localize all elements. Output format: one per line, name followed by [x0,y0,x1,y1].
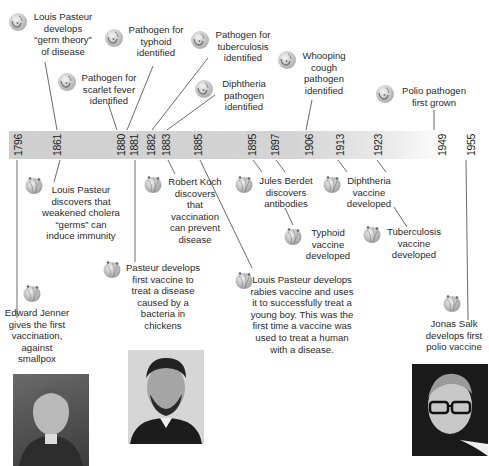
event-text: treat a disease [122,285,204,297]
event-1796-jenner-smallpox: Edward Jenner gives the first vaccinatio… [2,307,72,365]
event-text: Tuberculosis [384,226,444,238]
event-text: Polio pathogen [396,85,472,97]
event-text: Diphtheria [343,175,395,187]
year-1949: 1949 [436,134,448,156]
event-text: develops first [420,330,488,342]
vaccine-history-timeline: 1796 1861 1880 1881 1882 1883 1885 1895 … [0,0,489,466]
event-text: used to treat a human [246,332,358,344]
event-text: developed [302,250,354,262]
year-1861: 1861 [51,134,63,156]
event-text: identified [126,47,186,59]
event-1881-chicken-vaccine: Pasteur develops first vaccine to treat … [122,262,204,332]
event-text: develops [30,23,96,35]
pathogen-icon [194,79,214,99]
event-text: bacteria in [122,308,204,320]
vaccine-icon [234,174,254,194]
event-text: vaccine [384,238,444,250]
event-text: Pathogen for [126,24,186,36]
event-text: Louis Pasteur [30,11,96,23]
person-silhouette-icon [412,364,488,456]
event-1880-scarlet-fever: Pathogen for scarlet fever identified [78,72,140,107]
vaccine-icon [102,259,122,279]
event-text: rabies vaccine and uses [246,286,358,298]
event-text: chickens [122,320,204,332]
event-text: Jules Berdet [255,175,317,187]
event-text: vaccine [343,187,395,199]
event-text: “germ theory” [30,34,96,46]
event-text: Diphtheria [216,78,272,90]
event-text: gives the first [2,319,72,331]
event-text: vaccination [163,211,227,223]
year-1881: 1881 [128,134,140,156]
vaccine-icon [143,174,163,194]
event-text: Louis Pasteur [36,184,126,196]
event-text: vaccination, [2,330,72,342]
pathogen-icon [57,72,77,92]
event-text: induce immunity [36,230,126,242]
event-text: typhoid [126,36,186,48]
event-text: discovers that [36,196,126,208]
event-text: vaccine [302,239,354,251]
vaccine-icon [283,226,303,246]
vaccine-icon [362,224,382,244]
event-1882-tuberculosis-pathogen: Pathogen for tuberculosis identified [212,29,274,64]
event-1881-typhoid-pathogen: Pathogen for typhoid identified [126,24,186,59]
year-1885: 1885 [192,134,204,156]
event-text: it to successfully treat a [246,297,358,309]
event-text: against [2,342,72,354]
event-1861-germ-theory: Louis Pasteur develops “germ theory” of … [30,11,96,57]
portrait-louis-pasteur [128,350,204,444]
event-text: of disease [30,46,96,58]
event-text: young boy. This was the [246,309,358,321]
event-text: discovers [163,188,227,200]
event-1906-whooping-cough-pathogen: Whooping cough pathogen identified [298,50,350,96]
pathogen-icon [104,28,124,48]
event-text: polio vaccine [420,341,488,353]
event-text: antibodies [255,198,317,210]
event-text: disease [163,234,227,246]
vaccine-icon [322,174,342,194]
event-text: Robert Koch [163,176,227,188]
event-text: Jonas Salk [420,318,488,330]
pathogen-icon [190,30,210,50]
year-1955: 1955 [465,134,477,156]
year-1883: 1883 [160,134,172,156]
event-text: pathogen [216,90,272,102]
event-1923-tuberculosis-vaccine: Tuberculosis vaccine developed [384,226,444,261]
event-1913-diphtheria-vaccine: Diphtheria vaccine developed [343,175,395,210]
pathogen-icon [8,12,28,32]
year-1923: 1923 [372,134,384,156]
event-text: Typhoid [302,227,354,239]
event-text: scarlet fever [78,84,140,96]
event-text: Whooping [298,50,350,62]
pathogen-icon [375,84,395,104]
year-1897: 1897 [269,134,281,156]
year-1882: 1882 [145,134,157,156]
event-text: Edward Jenner [2,307,72,319]
timeline-band [9,131,479,159]
event-1883-koch-vaccination: Robert Koch discovers that vaccination c… [163,176,227,246]
event-text: pathogen [298,73,350,85]
event-text: that [163,199,227,211]
vaccine-icon [442,293,462,313]
event-1955-salk-polio-vaccine: Jonas Salk develops first polio vaccine [420,318,488,353]
year-1880: 1880 [115,134,127,156]
event-1883-diphtheria-pathogen: Diphtheria pathogen identified [216,78,272,113]
event-text: first grown [396,97,472,109]
year-1913: 1913 [334,134,346,156]
portrait-edward-jenner [13,374,89,466]
event-text: identified [212,52,274,64]
event-text: Pathogen for [212,29,274,41]
event-text: identified [216,101,272,113]
pathogen-icon [277,50,297,70]
event-text: Pathogen for [78,72,140,84]
person-silhouette-icon [13,374,89,466]
vaccine-icon [22,283,42,303]
year-1895: 1895 [246,134,258,156]
event-text: Louis Pasteur develops [246,274,358,286]
event-text: “germs” can [36,219,126,231]
event-text: weakened cholera [36,207,126,219]
event-text: developed [384,249,444,261]
event-1895-berdet-antibodies: Jules Berdet discovers antibodies [255,175,317,210]
person-silhouette-icon [128,350,204,444]
